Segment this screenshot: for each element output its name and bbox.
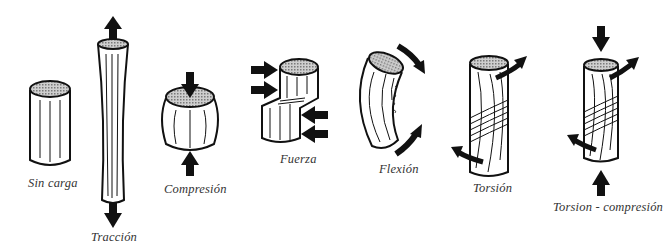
arrow-left-icon [301, 125, 328, 143]
label-traccion: Tracción [91, 230, 137, 245]
cylinder-unloaded [30, 81, 70, 165]
arrow-right-icon [251, 81, 278, 99]
cylinder-tension [98, 39, 128, 203]
label-torsion: Torsión [473, 181, 512, 196]
arrow-down-icon [104, 202, 122, 228]
label-sin-carga: Sin carga [28, 176, 78, 191]
label-compresion: Compresión [164, 182, 227, 197]
arrow-down-icon [592, 26, 610, 52]
arrow-up-icon [592, 170, 610, 196]
stress-types-diagram: Sin carga Tracción Compresión Fuerza Fle… [0, 0, 671, 246]
arrow-right-icon [251, 61, 278, 79]
cylinder-bending [360, 48, 406, 148]
arrow-up-icon [104, 16, 122, 40]
label-torsion-compresion: Torsion - compresión [553, 200, 663, 215]
arrow-left-icon [301, 106, 328, 124]
curved-arrow-icon [396, 124, 422, 154]
arrow-up-icon [181, 151, 199, 176]
label-fuerza: Fuerza [280, 152, 317, 167]
label-flexion: Flexión [379, 162, 419, 177]
